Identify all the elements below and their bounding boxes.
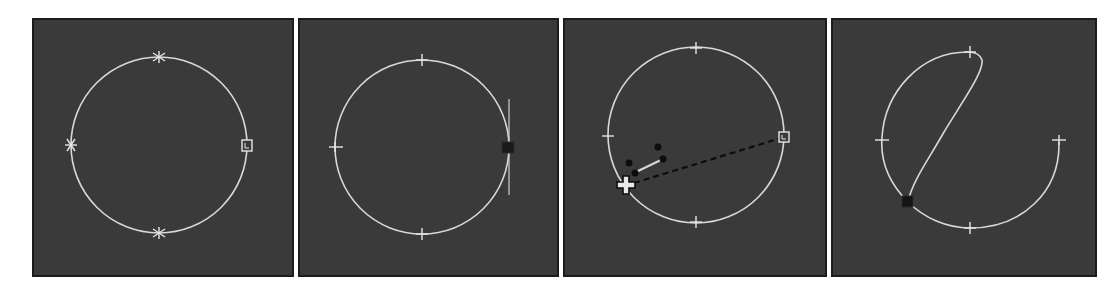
circle-curve-2 bbox=[300, 20, 561, 279]
handle-point[interactable] bbox=[626, 160, 633, 167]
viewport-panel-2 bbox=[298, 18, 559, 277]
handle-point[interactable] bbox=[655, 144, 662, 151]
circle-curve-1 bbox=[34, 20, 296, 279]
tick-vertex-icon bbox=[690, 216, 702, 228]
tick-vertex-icon bbox=[329, 142, 343, 152]
handle-point[interactable] bbox=[632, 170, 639, 177]
first-vertex-square-icon[interactable] bbox=[242, 140, 252, 151]
handle-segment bbox=[636, 159, 663, 172]
tick-vertex-icon bbox=[416, 228, 428, 240]
tick-vertex-icon bbox=[690, 42, 702, 54]
viewport-panel-4 bbox=[831, 18, 1097, 277]
handle-point[interactable] bbox=[660, 156, 667, 163]
tick-vertex-icon bbox=[964, 46, 976, 58]
circle-curve-3 bbox=[565, 20, 829, 279]
tick-vertex-icon bbox=[416, 54, 428, 66]
figure-strip bbox=[0, 0, 1120, 293]
selected-vertex-square-icon[interactable] bbox=[902, 196, 913, 207]
viewport-panel-1 bbox=[32, 18, 294, 277]
tick-vertex-icon bbox=[964, 222, 976, 234]
viewport-panel-3 bbox=[563, 18, 827, 277]
selected-vertex-square-icon[interactable] bbox=[502, 142, 514, 153]
first-vertex-square-icon[interactable] bbox=[779, 132, 789, 142]
tick-vertex-icon bbox=[1052, 135, 1066, 145]
reshaped-curve-4 bbox=[833, 20, 1099, 279]
